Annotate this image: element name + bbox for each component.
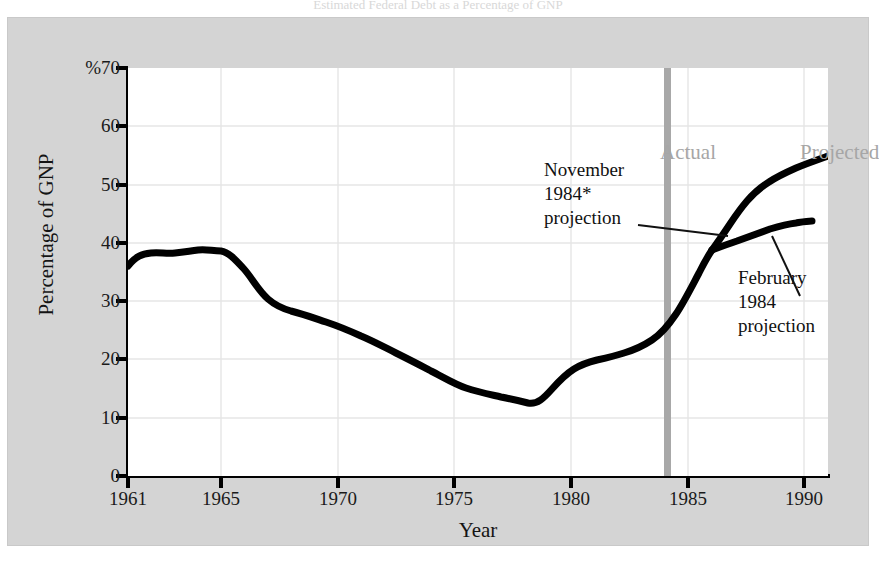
annotation-leader-lines (128, 68, 828, 476)
annotation-november-line-3: projection (544, 206, 624, 230)
x-tick-1980: 1980 (531, 488, 611, 510)
annotation-february-line-2: 1984 (738, 290, 815, 314)
figure-panel: %70 60 50 40 30 20 10 0 1961 1965 1970 1… (8, 18, 868, 545)
x-tick-1961: 1961 (88, 488, 168, 510)
annotation-november-line-1: November (544, 158, 624, 182)
plot-area: Actual Projected (128, 68, 828, 476)
y-axis-label: Percentage of GNP (34, 85, 59, 385)
x-tick-1975: 1975 (414, 488, 494, 510)
x-tick-1965: 1965 (181, 488, 261, 510)
x-tick-1970: 1970 (298, 488, 378, 510)
x-tick-1990: 1990 (764, 488, 844, 510)
annotation-february-line-1: February (738, 266, 815, 290)
clipped-figure-title: Estimated Federal Debt as a Percentage o… (0, 0, 876, 14)
annotation-november-projection: November 1984* projection (544, 158, 624, 230)
annotation-february-line-3: projection (738, 314, 815, 338)
annotation-february-projection: February 1984 projection (738, 266, 815, 338)
november-leader-line (638, 225, 728, 236)
x-axis-label: Year (128, 518, 828, 543)
annotation-november-line-2: 1984* (544, 182, 624, 206)
x-tick-1985: 1985 (648, 488, 728, 510)
